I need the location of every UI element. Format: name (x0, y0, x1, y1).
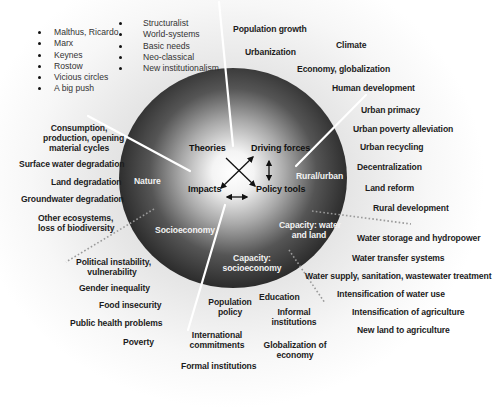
tool-education: Education (259, 292, 300, 302)
list-item: World-systems (119, 29, 219, 40)
tool-urban-recycling: Urban recycling (360, 142, 423, 152)
tool-globalization: Globalization of economy (259, 340, 331, 360)
driving-force-population-growth: Population growth (233, 24, 307, 34)
tool-intensification-agriculture: Intensification of agriculture (352, 307, 465, 317)
list-item: A big push (38, 83, 118, 94)
tool-new-land: New land to agriculture (357, 325, 450, 335)
tool-water-transfer: Water transfer systems (352, 253, 445, 263)
bullet-icon (38, 87, 41, 90)
bullet-icon (38, 76, 41, 79)
impact-consumption: Consumption, production, opening materia… (43, 123, 115, 153)
impact-poverty: Poverty (123, 337, 154, 347)
list-item: Neo-classical (119, 52, 219, 63)
list-item: Rostow (38, 61, 118, 72)
impact-other-ecosystems: Other ecosystems, loss of biodiversity (38, 213, 112, 233)
list-item: Keynes (38, 50, 118, 61)
tool-population-policy: Population policy (204, 297, 256, 317)
list-item: Structuralist (119, 18, 219, 29)
impact-political-instability: Political instability, vulnerability (76, 257, 148, 277)
impact-public-health: Public health problems (70, 318, 162, 328)
impact-food-insecurity: Food insecurity (99, 300, 161, 310)
bullet-icon (119, 33, 122, 36)
bullet-icon (119, 56, 122, 59)
driving-force-climate: Climate (336, 40, 366, 50)
driving-force-human-development: Human development (332, 83, 415, 93)
bullet-icon (119, 67, 122, 70)
tool-land-reform: Land reform (365, 183, 414, 193)
sector-nature: Nature (134, 176, 161, 186)
driving-force-economy: Economy, globalization (297, 64, 390, 74)
list-item: Vicious circles (38, 72, 118, 83)
list-item: New institutionalism (119, 63, 219, 74)
tool-water-storage: Water storage and hydropower (357, 233, 480, 243)
core-impacts: Impacts (188, 184, 221, 194)
impact-gender-inequality: Gender inequality (79, 283, 150, 293)
sector-socioeconomy: Socioeconomy (155, 225, 215, 235)
impact-groundwater: Groundwater degradation (21, 194, 124, 204)
tool-urban-primacy: Urban primacy (361, 105, 420, 115)
tool-formal-institutions: Formal institutions (181, 361, 256, 371)
bullet-icon (38, 65, 41, 68)
core-policy-tools: Policy tools (256, 184, 305, 194)
tool-informal-institutions: Informal institutions (266, 307, 322, 327)
core-driving-forces: Driving forces (251, 143, 310, 153)
theories-list-right: Structuralist World-systems Basic needs … (119, 18, 219, 74)
bullet-icon (38, 31, 41, 34)
tool-rural-development: Rural development (373, 203, 449, 213)
sector-rural-urban: Rural/urban (296, 171, 343, 181)
tool-urban-poverty: Urban poverty alleviation (353, 124, 453, 134)
tool-water-supply: Water supply, sanitation, wastewater tre… (305, 271, 491, 281)
impact-land-degradation: Land degradation (51, 177, 122, 187)
list-item: Marx (38, 38, 118, 49)
list-item: Basic needs (119, 41, 219, 52)
list-item: Malthus, Ricardo (38, 27, 118, 38)
bullet-icon (38, 54, 41, 57)
bullet-icon (38, 42, 41, 45)
bullet-icon (119, 45, 122, 48)
sector-capacity-socioeconomy: Capacity: socioeconomy (222, 253, 282, 273)
driving-force-urbanization: Urbanization (245, 47, 296, 57)
bullet-icon (119, 22, 122, 25)
theories-list-left: Malthus, Ricardo Marx Keynes Rostow Vici… (38, 27, 118, 95)
tool-decentralization: Decentralization (357, 162, 422, 172)
core-theories: Theories (189, 143, 226, 153)
impact-surface-water: Surface water degradation (19, 159, 124, 169)
sector-capacity-water-land: Capacity: water and land (279, 220, 339, 240)
tool-intensification-water: Intensification of water use (337, 289, 445, 299)
tool-international-commitments: International commitments (186, 330, 248, 350)
